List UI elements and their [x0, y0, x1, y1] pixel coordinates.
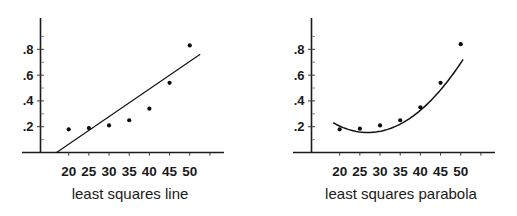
- x-axis-label: 50: [453, 164, 468, 179]
- x-axis-label: 25: [352, 164, 368, 179]
- least-squares-parabola-fit: [334, 60, 463, 133]
- data-point: [67, 127, 71, 131]
- chart-svg-line: .2.4.6.8 20253035404550 least squares li…: [0, 0, 258, 216]
- x-tick-labels: 20253035404550: [332, 164, 468, 179]
- x-tick-labels: 20253035404550: [61, 164, 197, 179]
- data-point: [398, 118, 402, 122]
- x-axis-label: 30: [102, 164, 117, 179]
- y-axis-label: .4: [294, 93, 306, 108]
- x-axis-label: 35: [122, 164, 138, 179]
- fit-line: [57, 55, 200, 153]
- y-axis-label: .2: [294, 119, 305, 134]
- x-axis-label: 40: [413, 164, 428, 179]
- data-point: [188, 43, 192, 47]
- x-axis-label: 40: [142, 164, 157, 179]
- fit-parabola: [334, 60, 463, 133]
- data-point: [147, 107, 151, 111]
- y-axis-label: .6: [23, 68, 34, 83]
- y-axis-label: .4: [23, 93, 35, 108]
- y-tick-labels: .2.4.6.8: [23, 42, 35, 134]
- data-point: [107, 123, 111, 127]
- least-squares-line-fit: [57, 55, 200, 153]
- chart-panel-least-squares-parabola: .2.4.6.8 20253035404550 least squares pa…: [258, 0, 516, 216]
- x-axis-label: 50: [182, 164, 197, 179]
- y-tick-labels: .2.4.6.8: [294, 42, 306, 134]
- data-point: [167, 81, 171, 85]
- y-axis-label: .8: [23, 42, 34, 57]
- chart-svg-parabola: .2.4.6.8 20253035404550 least squares pa…: [258, 0, 516, 216]
- chart-caption-line: least squares line: [72, 185, 189, 202]
- data-points: [67, 43, 192, 131]
- data-point: [127, 118, 131, 122]
- axes-line-chart: [22, 18, 224, 153]
- data-point: [438, 81, 442, 85]
- x-axis-label: 30: [373, 164, 388, 179]
- x-axis-label: 20: [332, 164, 347, 179]
- y-axis-label: .6: [294, 68, 305, 83]
- x-axis-label: 35: [393, 164, 409, 179]
- y-axis-label: .2: [23, 119, 34, 134]
- data-point: [459, 42, 463, 46]
- data-point: [338, 127, 342, 131]
- x-axis-label: 45: [162, 164, 178, 179]
- chart-panel-least-squares-line: .2.4.6.8 20253035404550 least squares li…: [0, 0, 258, 216]
- least-squares-figure: .2.4.6.8 20253035404550 least squares li…: [0, 0, 517, 216]
- x-axis-label: 45: [433, 164, 449, 179]
- chart-caption-parabola: least squares parabola: [325, 185, 477, 202]
- y-axis-label: .8: [294, 42, 305, 57]
- data-point: [87, 126, 91, 130]
- data-point: [378, 123, 382, 127]
- x-axis-label: 20: [61, 164, 76, 179]
- data-point: [358, 127, 362, 131]
- x-axis-label: 25: [81, 164, 97, 179]
- axes-parabola-chart: [293, 18, 495, 153]
- data-point: [418, 105, 422, 109]
